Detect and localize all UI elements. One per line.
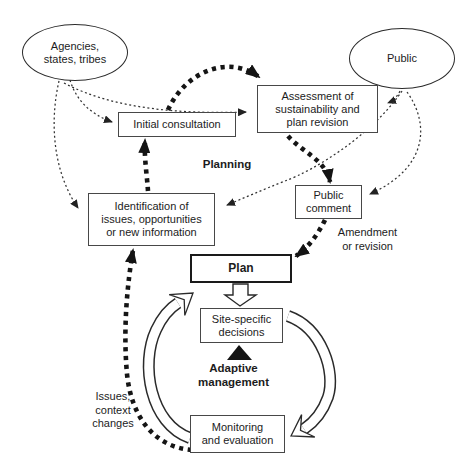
arrow-identification-to-initial-consultation [145, 140, 148, 191]
amendment-line2: or revision [342, 240, 393, 254]
identification-label-line1: Identification of [115, 200, 189, 213]
planning-label: Planning [190, 158, 264, 172]
node-site-specific-decisions: Site-specific decisions [200, 308, 283, 343]
node-monitoring-evaluation: Monitoring and evaluation [190, 415, 285, 453]
arrow-public-comment-to-plan [296, 220, 325, 256]
node-agencies-states-tribes: Agencies, states, tribes [22, 24, 128, 81]
assessment-label-line2: sustainability and [275, 103, 359, 116]
plan-to-site-block-arrow-icon [225, 284, 256, 306]
monitoring-label-line2: and evaluation [202, 434, 274, 447]
plan-label: Plan [228, 262, 253, 275]
adaptive-management-label: Adaptive management [195, 362, 272, 389]
assessment-label-line1: Assessment of [281, 90, 353, 103]
arrow-initial-consultation-to-assessment [168, 67, 259, 110]
adaptive-line1: Adaptive [209, 362, 258, 376]
identification-label-line3: or new information [106, 226, 197, 239]
adaptive-line2: management [198, 376, 269, 390]
arrow-agencies-to-initial-consultation [70, 80, 112, 122]
site-specific-label-line1: Site-specific [212, 313, 271, 326]
identification-label-line2: issues, opportunities [101, 213, 201, 226]
issues-line1: Issues, [96, 390, 131, 404]
agencies-label-line1: Agencies, [51, 40, 99, 53]
amendment-line1: Amendment [338, 226, 397, 240]
amendment-or-revision-label: Amendment or revision [330, 226, 405, 253]
monitoring-label-line1: Monitoring [212, 421, 263, 434]
node-plan: Plan [190, 254, 292, 283]
cycle-up-arrow [149, 293, 193, 438]
issues-line3: changes [92, 417, 134, 431]
arrow-public-to-assessment [388, 91, 400, 103]
public-comment-label-line2: comment [306, 202, 351, 215]
assessment-label-line3: plan revision [287, 116, 349, 129]
cycle-down-arrow [288, 316, 330, 437]
site-specific-label-line2: decisions [219, 326, 265, 339]
diagram-canvas: Agencies, states, tribes Public Initial … [0, 0, 473, 472]
arrow-agencies-to-identification [54, 81, 78, 208]
initial-consultation-label: Initial consultation [133, 118, 220, 131]
arrow-agencies-to-assessment [64, 83, 246, 112]
adaptive-up-triangle-icon [227, 345, 252, 360]
node-identification: Identification of issues, opportunities … [88, 193, 215, 246]
node-public: Public [349, 28, 455, 89]
agencies-label-line2: states, tribes [44, 53, 106, 66]
node-initial-consultation: Initial consultation [118, 112, 236, 137]
public-comment-label-line1: Public [314, 189, 344, 202]
arrow-assessment-to-public-comment [288, 136, 330, 182]
public-label: Public [387, 52, 417, 65]
node-public-comment: Public comment [295, 185, 362, 219]
issues-line2: context [95, 404, 130, 418]
node-assessment: Assessment of sustainability and plan re… [257, 85, 378, 133]
issues-context-changes-label: Issues, context changes [80, 390, 146, 431]
